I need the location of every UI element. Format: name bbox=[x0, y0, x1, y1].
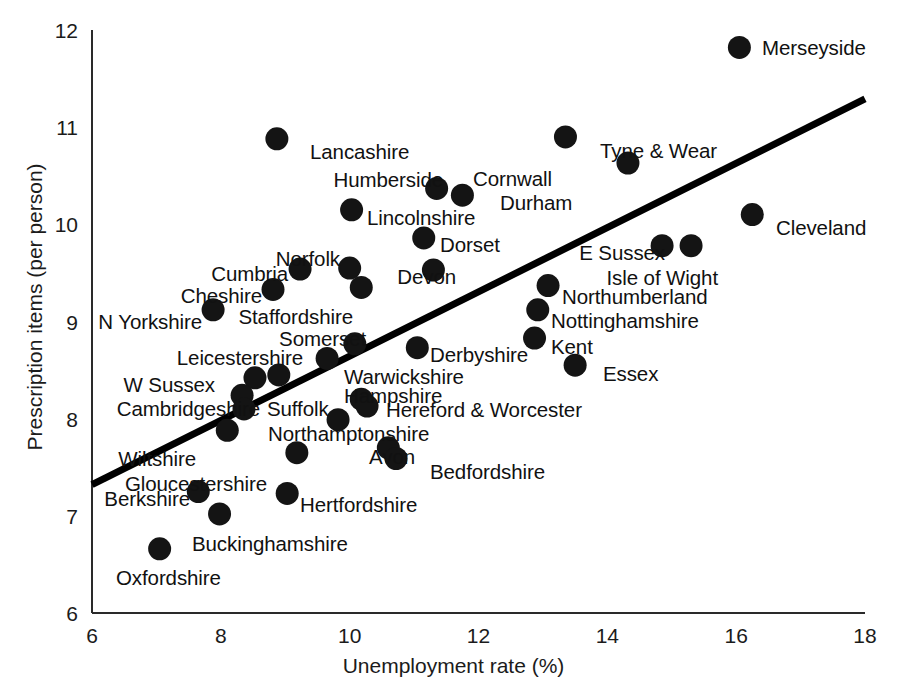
scatter-plot-figure: 6789101112 681012141618 MerseysideLancas… bbox=[0, 0, 907, 700]
point-label: Suffolk bbox=[267, 399, 329, 420]
point-label: Bedfordshire bbox=[430, 462, 545, 483]
data-point bbox=[276, 482, 299, 505]
data-point bbox=[741, 203, 764, 226]
point-label: Hereford & Worcester bbox=[386, 400, 582, 421]
point-label: Derbyshire bbox=[430, 345, 528, 366]
point-label: Hertfordshire bbox=[300, 495, 417, 516]
point-label: Berkshire bbox=[0, 489, 190, 510]
data-point bbox=[406, 336, 429, 359]
point-label: Buckinghamshire bbox=[192, 534, 348, 555]
point-label: Humberside bbox=[0, 170, 443, 191]
x-tick-label: 10 bbox=[328, 625, 372, 646]
point-label: Northamptonshire bbox=[268, 424, 429, 445]
x-tick-label: 14 bbox=[585, 625, 629, 646]
data-point bbox=[265, 127, 288, 150]
x-tick-label: 8 bbox=[199, 625, 243, 646]
point-label: Kent bbox=[551, 337, 593, 358]
data-point bbox=[148, 537, 171, 560]
x-tick-label: 16 bbox=[714, 625, 758, 646]
point-label: Lincolnshire bbox=[367, 208, 475, 229]
point-label: Oxfordshire bbox=[116, 568, 221, 589]
point-label: Northumberland bbox=[562, 287, 708, 308]
point-label: Durham bbox=[500, 193, 572, 214]
point-label: Merseyside bbox=[762, 38, 866, 59]
data-point bbox=[728, 36, 751, 59]
y-axis-title: Prescription items (per person) bbox=[24, 191, 45, 451]
data-point bbox=[680, 234, 703, 257]
x-tick-label: 18 bbox=[843, 625, 887, 646]
point-label: Tyne & Wear bbox=[600, 141, 717, 162]
point-label: Cleveland bbox=[776, 218, 866, 239]
data-point bbox=[526, 298, 549, 321]
point-label: Lancashire bbox=[310, 142, 409, 163]
x-tick-label: 12 bbox=[457, 625, 501, 646]
point-label: Nottinghamshire bbox=[551, 311, 699, 332]
data-point bbox=[316, 347, 339, 370]
x-axis-title: Unemployment rate (%) bbox=[0, 655, 907, 676]
y-tick-label: 11 bbox=[34, 117, 78, 138]
data-point bbox=[208, 502, 231, 525]
data-point bbox=[554, 125, 577, 148]
y-tick-label: 6 bbox=[34, 603, 78, 624]
x-tick-label: 6 bbox=[70, 625, 114, 646]
data-point bbox=[216, 419, 239, 442]
point-label: Essex bbox=[603, 364, 658, 385]
data-point bbox=[340, 198, 363, 221]
point-label: Avon bbox=[0, 447, 415, 468]
y-tick-label: 12 bbox=[34, 20, 78, 41]
